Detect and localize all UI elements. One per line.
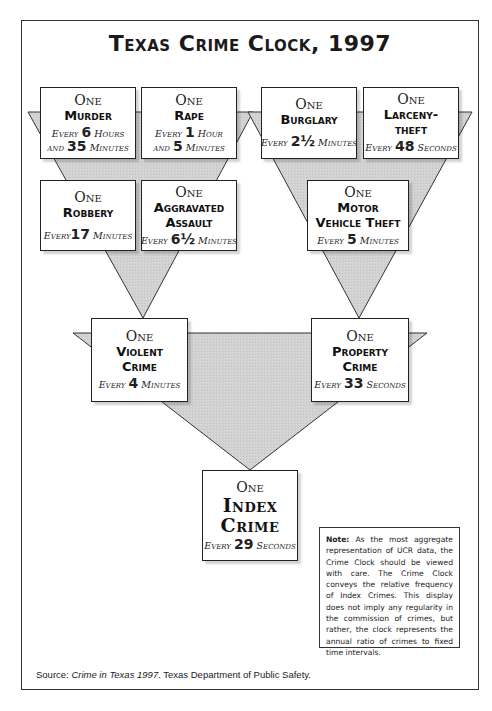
node-name: Aggravated Assault [154, 200, 225, 230]
node-robbery: One Robbery Every17 Minutes [40, 180, 136, 251]
one-label: One [236, 480, 264, 495]
node-frequency-line2: and 5 Minutes [153, 140, 225, 154]
node-name: Index Crime [221, 495, 280, 535]
one-label: One [344, 185, 372, 200]
node-aggravated-assault: One Aggravated Assault Every 6½ Minutes [141, 180, 237, 251]
node-name: Rape [174, 108, 204, 123]
source-citation: Source: Crime in Texas 1997. Texas Depar… [36, 669, 311, 680]
node-name: Larceny- theft [384, 107, 438, 137]
note-label: Note: [326, 535, 349, 544]
node-larceny-theft: One Larceny- theft Every 48 Seconds [363, 87, 459, 159]
one-label: One [175, 185, 203, 200]
node-frequency: Every17 Minutes [44, 228, 132, 242]
node-motor-vehicle-theft: One Motor Vehicle Theft Every 5 Minutes [307, 180, 409, 251]
node-burglary: One Burglary Every 2½ Minutes [261, 87, 357, 159]
node-name: Murder [64, 108, 112, 123]
note-text: As the most aggregate representation of … [326, 535, 453, 657]
one-label: One [295, 97, 323, 112]
node-frequency: Every 5 Minutes [317, 233, 399, 247]
node-name: Robbery [63, 205, 113, 220]
node-frequency: Every 6½ Minutes [141, 233, 237, 247]
node-frequency-line2: and 35 Minutes [47, 140, 128, 154]
node-frequency: Every 29 Seconds [204, 538, 296, 552]
node-murder: One Murder Every 6 Hours and 35 Minutes [40, 87, 136, 159]
one-label: One [175, 93, 203, 108]
node-index-crime: One Index Crime Every 29 Seconds [202, 470, 298, 561]
note-box: Note: As the most aggregate representati… [319, 527, 460, 648]
one-label: One [126, 329, 154, 344]
node-rape: One Rape Every 1 Hour and 5 Minutes [141, 87, 237, 159]
one-label: One [74, 190, 102, 205]
node-frequency: Every 33 Seconds [314, 377, 406, 391]
node-frequency: Every 1 Hour [155, 126, 223, 140]
node-name: Motor Vehicle Theft [316, 200, 401, 230]
node-violent-crime: One Violent Crime Every 4 Minutes [91, 318, 188, 402]
node-property-crime: One Property Crime Every 33 Seconds [311, 318, 409, 402]
node-frequency: Every 4 Minutes [99, 377, 181, 391]
node-name: Burglary [280, 112, 337, 127]
node-frequency: Every 6 Hours [52, 126, 125, 140]
one-label: One [74, 93, 102, 108]
one-label: One [346, 329, 374, 344]
source-label: Source: [36, 669, 69, 680]
one-label: One [397, 92, 425, 107]
node-frequency: Every 48 Seconds [365, 140, 457, 154]
node-name: Property Crime [332, 344, 388, 374]
node-name: Violent Crime [116, 344, 163, 374]
source-publisher: . Texas Department of Public Safety. [158, 669, 311, 680]
node-frequency: Every 2½ Minutes [261, 135, 357, 149]
source-publication: Crime in Texas 1997 [71, 669, 158, 680]
diagram-title: Texas Crime Clock, 1997 [21, 31, 479, 56]
